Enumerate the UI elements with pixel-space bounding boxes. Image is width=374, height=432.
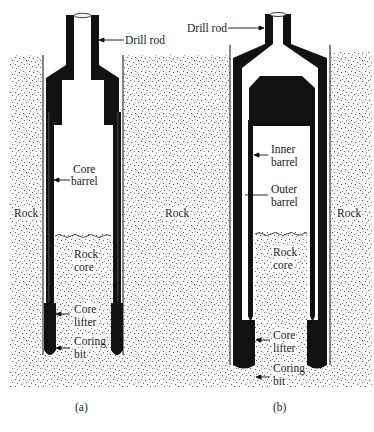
coring-bit-b-right [307,320,327,369]
label-inner-barrel-line1: Inner [271,143,295,155]
label-drill-rod-b: Drill rod [187,22,227,34]
label-rock-core-a-line1: Rock [73,248,99,260]
inner-barrel-tube-right [310,120,315,316]
label-rock-core-b-line1: Rock [272,246,298,258]
label-rock-middle: Rock [164,207,190,219]
label-rock-left-a: Rock [13,207,39,219]
label-core-barrel-a-line1: Core [73,163,95,175]
coring-bit-b-left [233,320,255,369]
label-coring-bit-a-line2: bit [73,348,87,360]
drill-rod-b [265,14,273,40]
label-core-lifter-b-line2: lifter [272,342,296,354]
core-barrel-tube-left [46,112,54,307]
label-drill-rod-a: Drill rod [125,34,165,46]
label-outer-barrel-line1: Outer [271,183,297,195]
label-core-barrel-a-line2: barrel [71,175,98,187]
label-rock-right-b: Rock [336,207,362,219]
label-rock-core-a-line2: core [73,261,95,273]
inner-barrel-head [249,76,315,126]
label-coring-bit-a-line1: Coring [73,335,107,347]
label-rock-core-b-line2: core [272,259,294,271]
coring-bit-a-left [44,303,56,355]
label-coring-bit-b-line2: bit [272,375,286,387]
label-core-lifter-b-line1: Core [272,329,296,341]
label-core-lifter-a-line1: Core [73,303,97,315]
caption-b: (b) [273,401,286,413]
label-coring-bit-b-line1: Coring [272,362,306,374]
caption-a: (a) [75,401,88,413]
inner-barrel-tube-left [248,120,253,316]
label-inner-barrel-line2: barrel [271,156,298,168]
label-outer-barrel-line2: barrel [271,196,298,208]
label-core-lifter-a-line2: lifter [73,316,97,328]
coring-bit-a-right [111,303,123,355]
